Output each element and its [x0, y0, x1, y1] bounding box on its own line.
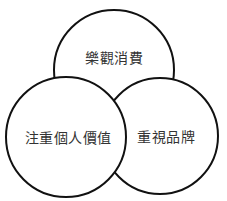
venn-diagram: [0, 0, 227, 201]
label-personal-value: 注重個人價值: [25, 127, 112, 147]
label-optimistic-consumption: 樂觀消費: [85, 47, 143, 67]
label-brand-focus: 重視品牌: [137, 126, 195, 146]
